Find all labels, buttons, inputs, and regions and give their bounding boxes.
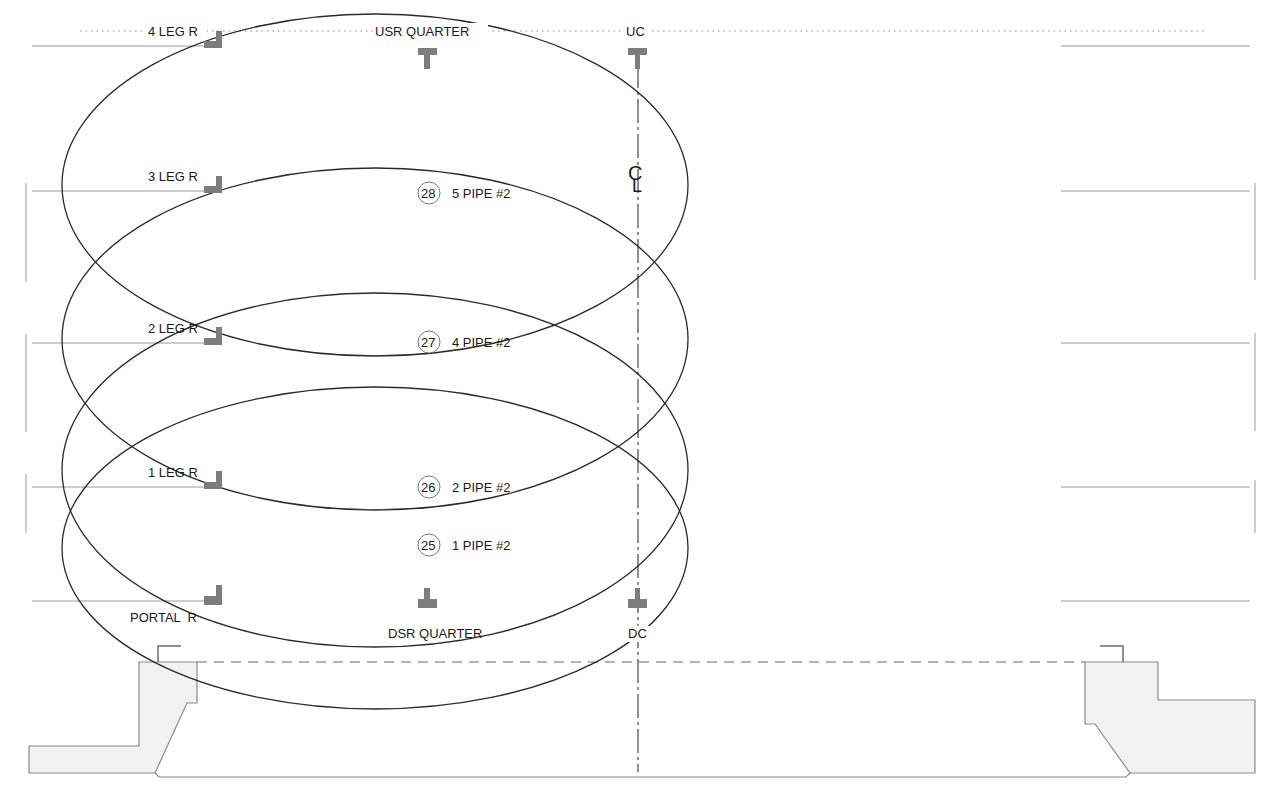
label-4-leg-r: 4 LEG R (148, 24, 198, 39)
svg-text:1 PIPE #2: 1 PIPE #2 (452, 538, 511, 553)
svg-text:4 PIPE #2: 4 PIPE #2 (452, 335, 511, 350)
svg-text:26: 26 (421, 480, 435, 495)
label-dsr-quarter: DSR QUARTER (388, 626, 482, 641)
pipe-callout-28: 28 5 PIPE #2 (418, 182, 511, 204)
svg-text:28: 28 (421, 186, 435, 201)
left-stage-wall (29, 662, 197, 773)
t-fittings (418, 48, 647, 608)
stage-floor-line (155, 773, 1130, 777)
dc-fitting (628, 588, 647, 608)
label-3-leg-r: 3 LEG R (148, 169, 198, 184)
label-portal-r: PORTAL R (130, 610, 197, 625)
label-usr-quarter: USR QUARTER (375, 24, 469, 39)
usr-quarter-fitting (418, 48, 437, 69)
ellipse-2 (62, 168, 688, 510)
left-wall-bracket (158, 646, 181, 662)
right-grid-lines (1061, 46, 1255, 601)
dsr-quarter-fitting (418, 588, 437, 608)
svg-text:25: 25 (421, 538, 435, 553)
leg-fitting-1 (204, 471, 222, 489)
pipe-callout-26: 26 2 PIPE #2 (418, 476, 511, 498)
ellipse-1 (62, 14, 688, 356)
label-1-leg-r: 1 LEG R (148, 465, 198, 480)
label-dc: DC (628, 626, 647, 641)
pipe-callout-25: 25 1 PIPE #2 (418, 534, 511, 556)
right-wall-bracket (1100, 646, 1123, 662)
svg-text:27: 27 (421, 335, 435, 350)
rigging-section-drawing: C L 4 LEG R USR QUARTER UC 3 LEG R 2 LEG… (0, 0, 1278, 799)
leg-fitting-portal (204, 585, 222, 605)
leg-fitting-3 (204, 176, 222, 193)
centerline-symbol-l: L (632, 176, 642, 196)
ellipse-4 (62, 387, 688, 709)
svg-text:2 PIPE #2: 2 PIPE #2 (452, 480, 511, 495)
label-uc: UC (626, 24, 645, 39)
ellipses (62, 14, 688, 709)
uc-fitting (628, 48, 647, 69)
svg-text:5 PIPE #2: 5 PIPE #2 (452, 186, 511, 201)
right-stage-wall (1085, 662, 1255, 773)
label-2-leg-r: 2 LEG R (148, 321, 198, 336)
pipe-callout-27: 27 4 PIPE #2 (418, 331, 511, 353)
